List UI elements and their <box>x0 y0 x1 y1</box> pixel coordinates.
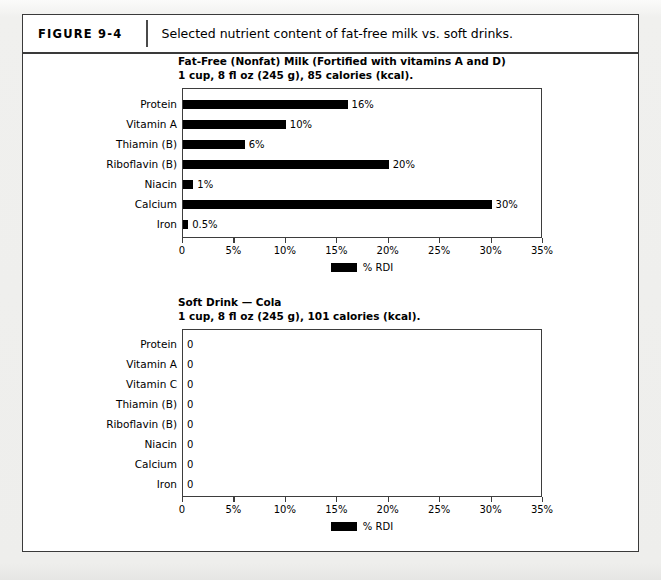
chart-2-x-axis: 05%10%15%20%25%30%35% <box>182 497 542 518</box>
x-tick <box>542 238 543 243</box>
figure-box: FIGURE 9-4 Selected nutrient content of … <box>22 14 639 552</box>
figure-caption: Selected nutrient content of fat-free mi… <box>148 26 514 41</box>
bar-row-label: Vitamin A <box>126 358 177 370</box>
x-tick-label: 0 <box>179 504 185 515</box>
bar-row: Niacin1% <box>183 174 541 194</box>
x-tick <box>182 238 183 243</box>
x-tick <box>439 497 440 502</box>
chart-2-legend-label: % RDI <box>363 521 393 532</box>
chart-2-bar-rows: Protein0Vitamin A0Vitamin C0Thiamin (B)0… <box>183 330 541 496</box>
x-tick-label: 20% <box>377 245 399 256</box>
chart-2-x-tick-labels: 05%10%15%20%25%30%35% <box>182 504 542 518</box>
bar-row: Vitamin C0 <box>183 374 541 394</box>
bar-value-label: 0 <box>187 359 193 370</box>
bar-row-label: Calcium <box>135 458 177 470</box>
x-tick-label: 15% <box>325 504 347 515</box>
x-tick <box>336 238 337 243</box>
bar-row-label: Calcium <box>135 198 177 210</box>
bar-row-label: Niacin <box>144 438 177 450</box>
bar-row: Vitamin A10% <box>183 114 541 134</box>
bar-row: Protein0 <box>183 334 541 354</box>
bar <box>183 220 188 229</box>
bar-row: Calcium0 <box>183 454 541 474</box>
chart-1-title: Fat-Free (Nonfat) Milk (Fortified with v… <box>178 55 638 82</box>
chart-1-x-tick-labels: 05%10%15%20%25%30%35% <box>182 245 542 259</box>
chart-2-x-ticks <box>182 497 542 502</box>
bar-row: Protein16% <box>183 94 541 114</box>
x-tick <box>388 238 389 243</box>
x-tick-label: 0 <box>179 245 185 256</box>
chart-2-title: Soft Drink — Cola 1 cup, 8 fl oz (245 g)… <box>178 296 638 323</box>
chart-1-plot-area: Protein16%Vitamin A10%Thiamin (B)6%Ribof… <box>182 88 542 238</box>
bar-value-label: 0 <box>187 459 193 470</box>
x-tick <box>233 238 234 243</box>
bar-row-label: Vitamin C <box>126 378 177 390</box>
bar <box>183 140 245 149</box>
bar-value-label: 16% <box>352 99 374 110</box>
x-tick-label: 10% <box>274 245 296 256</box>
bar <box>183 200 492 209</box>
chart-1-legend: % RDI <box>182 262 542 273</box>
bar-row: Niacin0 <box>183 434 541 454</box>
x-tick-label: 30% <box>479 245 501 256</box>
figure-number-label: FIGURE 9-4 <box>23 27 146 41</box>
x-tick-label: 35% <box>531 504 553 515</box>
figure-header: FIGURE 9-4 Selected nutrient content of … <box>23 15 638 52</box>
x-tick <box>336 497 337 502</box>
x-tick-label: 20% <box>377 504 399 515</box>
page-background: FIGURE 9-4 Selected nutrient content of … <box>0 0 661 580</box>
bar-row-label: Vitamin A <box>126 118 177 130</box>
header-rule <box>23 52 638 54</box>
chart-2-title-line1: Soft Drink — Cola <box>178 296 638 310</box>
chart-2-legend: % RDI <box>182 521 542 532</box>
bar-row-label: Thiamin (B) <box>116 398 177 410</box>
bar <box>183 100 348 109</box>
bar-row-label: Iron <box>157 478 177 490</box>
bar-value-label: 1% <box>197 179 213 190</box>
bar-row-label: Riboflavin (B) <box>106 418 177 430</box>
bar-row: Thiamin (B)0 <box>183 394 541 414</box>
legend-swatch-icon <box>331 522 357 531</box>
x-tick <box>491 497 492 502</box>
bar-value-label: 6% <box>249 139 265 150</box>
bar-row: Thiamin (B)6% <box>183 134 541 154</box>
x-tick-label: 25% <box>428 245 450 256</box>
bar-row-label: Iron <box>157 218 177 230</box>
x-tick <box>233 497 234 502</box>
chart-fat-free-milk: Fat-Free (Nonfat) Milk (Fortified with v… <box>23 55 638 88</box>
bar-value-label: 0 <box>187 339 193 350</box>
x-tick-label: 35% <box>531 245 553 256</box>
bar <box>183 120 286 129</box>
x-tick-label: 15% <box>325 245 347 256</box>
chart-1-bar-rows: Protein16%Vitamin A10%Thiamin (B)6%Ribof… <box>183 89 541 237</box>
x-tick-label: 30% <box>479 504 501 515</box>
x-tick <box>439 238 440 243</box>
x-tick-label: 5% <box>225 504 241 515</box>
bar <box>183 160 389 169</box>
chart-1-legend-label: % RDI <box>363 262 393 273</box>
chart-1-title-line2: 1 cup, 8 fl oz (245 g), 85 calories (kca… <box>178 69 638 83</box>
bar-value-label: 0 <box>187 479 193 490</box>
chart-1-x-ticks <box>182 238 542 243</box>
legend-swatch-icon <box>331 263 357 272</box>
bar-row-label: Niacin <box>144 178 177 190</box>
x-tick <box>285 238 286 243</box>
bar-value-label: 20% <box>393 159 415 170</box>
bar <box>183 180 193 189</box>
bar-row-label: Thiamin (B) <box>116 138 177 150</box>
bar-row: Iron0.5% <box>183 214 541 234</box>
chart-soft-drink-cola: Soft Drink — Cola 1 cup, 8 fl oz (245 g)… <box>23 296 638 329</box>
bar-row-label: Riboflavin (B) <box>106 158 177 170</box>
bar-value-label: 30% <box>496 199 518 210</box>
bar-row: Iron0 <box>183 474 541 494</box>
bar-value-label: 0.5% <box>192 219 217 230</box>
bar-value-label: 0 <box>187 439 193 450</box>
x-tick-label: 5% <box>225 245 241 256</box>
bar-row: Calcium30% <box>183 194 541 214</box>
x-tick <box>388 497 389 502</box>
bar-row: Vitamin A0 <box>183 354 541 374</box>
bar-value-label: 0 <box>187 419 193 430</box>
bar-row-label: Protein <box>140 338 177 350</box>
bar-value-label: 10% <box>290 119 312 130</box>
chart-2-title-line2: 1 cup, 8 fl oz (245 g), 101 calories (kc… <box>178 310 638 324</box>
